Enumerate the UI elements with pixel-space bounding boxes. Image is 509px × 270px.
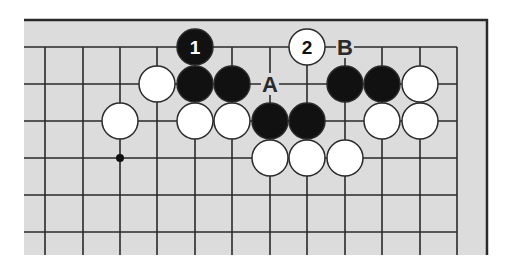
white-stone	[252, 140, 288, 176]
black-stone	[289, 103, 325, 139]
black-stone	[364, 66, 400, 102]
white-stone	[364, 103, 400, 139]
white-stone	[327, 140, 363, 176]
black-stone	[214, 66, 250, 102]
black-stone	[252, 103, 288, 139]
move-number-2: 2	[302, 37, 313, 58]
marker-a: A	[262, 72, 278, 97]
white-stone	[139, 66, 175, 102]
go-board-diagram: AB 12	[0, 0, 509, 270]
hoshi-point	[116, 154, 124, 162]
hoshi-points	[116, 154, 124, 162]
black-stone	[327, 66, 363, 102]
marker-b: B	[337, 35, 353, 60]
white-stone	[177, 103, 213, 139]
white-stone	[214, 103, 250, 139]
white-stone	[402, 103, 438, 139]
white-stone	[102, 103, 138, 139]
move-number-1: 1	[190, 37, 201, 58]
white-stone	[402, 66, 438, 102]
white-stone	[289, 140, 325, 176]
black-stone	[177, 66, 213, 102]
